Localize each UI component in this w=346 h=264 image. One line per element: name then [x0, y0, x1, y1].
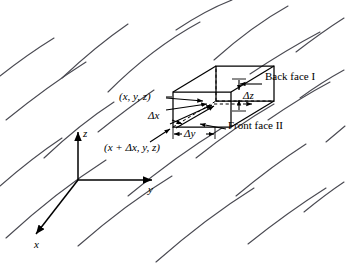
delta-y-label: Δy — [184, 128, 195, 139]
near-corner-label: (x, y, z) — [119, 91, 151, 102]
streamline-field — [0, 0, 345, 262]
back-face-label: Back face I — [265, 71, 315, 82]
control-volume-figure: (x, y, z) (x + Δx, y, z) Δx Δy Δz Back f… — [0, 0, 346, 264]
cube-edge-tl — [173, 66, 216, 92]
flow-arrow-in-mid — [166, 104, 207, 110]
y-axis-label: y — [148, 184, 153, 195]
z-axis-label: z — [83, 128, 87, 139]
delta-z-label: Δz — [243, 90, 254, 101]
delta-x-label: Δx — [148, 110, 159, 121]
flow-arrow-in-upper — [166, 98, 203, 101]
figure-canvas — [0, 0, 346, 264]
flow-arrow-corner — [176, 106, 214, 128]
far-corner-label: (x + Δx, y, z) — [104, 142, 160, 153]
front-face-label: Front face II — [228, 120, 283, 131]
x-axis-label: x — [34, 239, 39, 250]
